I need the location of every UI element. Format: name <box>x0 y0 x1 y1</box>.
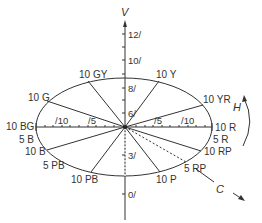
hue-label-10pb: 10 PB <box>71 174 99 185</box>
chroma-tick-right-5: /5 <box>154 115 162 126</box>
value-tick-3: 3/ <box>128 150 136 161</box>
hue-label-10yr: 10 YR <box>203 94 231 105</box>
value-tick-8: 8/ <box>128 83 136 94</box>
hue-arrow-icon <box>242 95 247 102</box>
value-tick-12: 12/ <box>128 29 142 40</box>
munsell-diagram: V H C 12/ 10/ 8/ 6/ 3/ 0/ /10 /5 /5 /10 … <box>0 0 262 223</box>
value-label: V <box>121 6 130 18</box>
hue-label-10gy: 10 GY <box>79 69 108 80</box>
chroma-tick-left-5: /5 <box>88 115 96 126</box>
hue-label-10bg: 10 BG <box>6 121 35 132</box>
value-tick-6: 6/ <box>128 108 136 119</box>
hue-label-5rp: 5 RP <box>184 163 207 174</box>
value-tick-0: 0/ <box>128 189 136 200</box>
hue-label-10r: 10 R <box>215 122 236 133</box>
hue-label-10rp: 10 RP <box>204 146 232 157</box>
hue-label-10g: 10 G <box>28 92 50 103</box>
hue-label-10y: 10 Y <box>156 69 177 80</box>
chroma-tick-right-10: /10 <box>181 115 194 126</box>
hue-label-5b: 5 B <box>19 134 34 145</box>
value-tick-10: 10/ <box>128 55 142 66</box>
hue-label-5pb: 5 PB <box>43 160 65 171</box>
hue-arc <box>243 98 250 146</box>
chroma-tick-left-10: /10 <box>55 115 68 126</box>
hue-label-5r: 5 R <box>213 134 229 145</box>
chroma-arrow-icon <box>238 195 245 201</box>
chroma-label: C <box>216 183 224 195</box>
hue-label-10b: 10 B <box>25 146 46 157</box>
hue-label: H <box>233 101 241 113</box>
value-axis-arrow-icon <box>123 20 127 27</box>
hue-label-10p: 10 P <box>156 174 177 185</box>
